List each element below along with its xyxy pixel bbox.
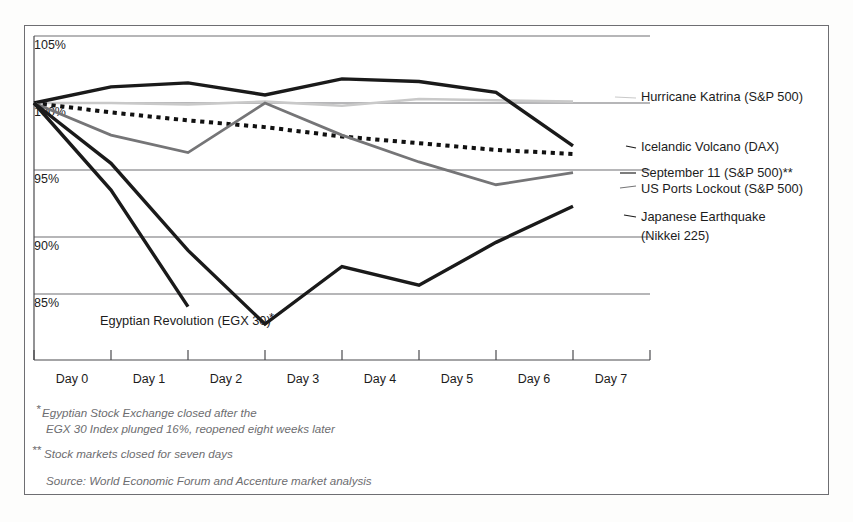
x-tick-label: Day 6 xyxy=(518,372,551,386)
x-tick-label: Day 3 xyxy=(287,372,320,386)
footnote-marker-2: ** xyxy=(32,443,42,456)
footnote-1-line-1: Egyptian Stock Exchange closed after the xyxy=(42,406,257,419)
series-label-september-11: September 11 (S&P 500)** xyxy=(641,165,793,180)
leader-line-ports-lockout xyxy=(620,186,636,188)
series-line-september-11-s-p-500 xyxy=(34,103,573,154)
inline-annotation-egyptian-revolution: Egyptian Revolution (EGX 30) * xyxy=(100,310,274,328)
series-label-japanese-earthquake: Japanese Earthquake xyxy=(641,209,766,224)
x-tick-label: Day 2 xyxy=(210,372,243,386)
y-axis-labels: 105% 100% 95% 90% 85% xyxy=(34,38,66,310)
y-tick-label: 105% xyxy=(34,38,66,52)
y-tick-label: 95% xyxy=(34,172,59,186)
x-tick-label: Day 5 xyxy=(441,372,474,386)
leader-line-volcano xyxy=(626,146,636,148)
series-labels: Hurricane Katrina (S&P 500) Icelandic Vo… xyxy=(641,89,803,243)
y-tick-label: 90% xyxy=(34,239,59,253)
gridlines xyxy=(34,36,650,294)
x-axis-labels: Day 0 Day 1 Day 2 Day 3 Day 4 Day 5 Day … xyxy=(56,372,628,386)
x-axis xyxy=(34,350,650,360)
series-line-us-ports-lockout-s-p-500 xyxy=(34,103,573,185)
label-leader-lines xyxy=(615,97,636,217)
source-note: Source: World Economic Forum and Accentu… xyxy=(46,474,372,487)
footnote-2-line-1: Stock markets closed for seven days xyxy=(44,447,233,460)
series-label-hurricane-katrina: Hurricane Katrina (S&P 500) xyxy=(641,89,803,104)
series-label-icelandic-volcano: Icelandic Volcano (DAX) xyxy=(641,139,779,154)
inline-label-egyptian-revolution: Egyptian Revolution (EGX 30) xyxy=(100,313,271,328)
footnotes: * Egyptian Stock Exchange closed after t… xyxy=(32,402,372,487)
x-tick-label: Day 7 xyxy=(595,372,628,386)
series-label-nikkei-225: (Nikkei 225) xyxy=(641,228,709,243)
y-tick-label: 85% xyxy=(34,296,59,310)
series-layer xyxy=(34,79,573,324)
x-tick-label: Day 0 xyxy=(56,372,89,386)
leader-line-earthquake xyxy=(624,215,636,217)
footnote-1-line-2: EGX 30 Index plunged 16%, reopened eight… xyxy=(46,422,336,435)
leader-line-katrina xyxy=(615,97,636,98)
x-tick-label: Day 4 xyxy=(364,372,397,386)
series-line-hurricane-katrina-s-p-500 xyxy=(34,99,573,106)
line-chart: 105% 100% 95% 90% 85% Day 0 Day 1 Day 2 xyxy=(0,0,853,522)
inline-label-egyptian-revolution-marker: * xyxy=(269,310,274,325)
footnote-marker-1: * xyxy=(36,402,41,415)
series-line-egyptian-revolution-egx-30 xyxy=(34,103,188,307)
chart-page: 105% 100% 95% 90% 85% Day 0 Day 1 Day 2 xyxy=(0,0,853,522)
x-tick-label: Day 1 xyxy=(133,372,166,386)
series-label-us-ports-lockout: US Ports Lockout (S&P 500) xyxy=(641,181,803,196)
